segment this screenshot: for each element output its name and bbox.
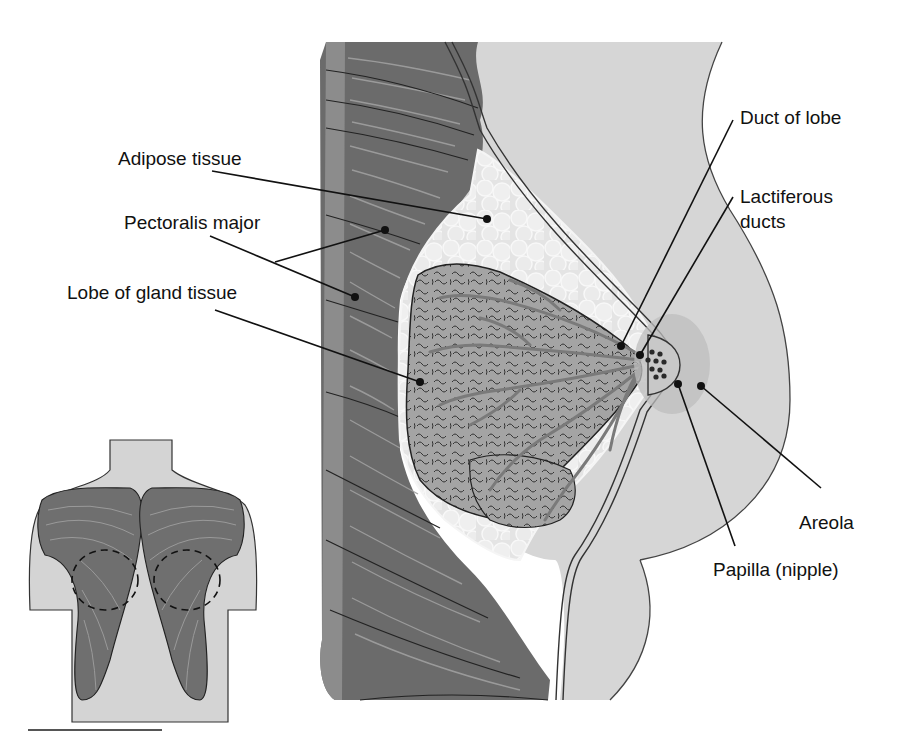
label-duct-of-lobe: Duct of lobe — [740, 107, 841, 129]
label-pectoralis-major: Pectoralis major — [124, 212, 260, 234]
label-adipose-tissue: Adipose tissue — [118, 148, 242, 170]
label-papilla: Papilla (nipple) — [713, 559, 839, 581]
label-lactiferous-ducts-line1: Lactiferous — [740, 186, 833, 208]
label-lobe-of-gland-tissue: Lobe of gland tissue — [67, 282, 237, 304]
label-areola: Areola — [799, 512, 854, 534]
torso-inset — [28, 440, 257, 730]
label-lactiferous-ducts-line2: ducts — [740, 211, 785, 233]
